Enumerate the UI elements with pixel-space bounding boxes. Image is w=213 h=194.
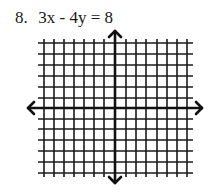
coordinate-grid: [0, 0, 213, 194]
